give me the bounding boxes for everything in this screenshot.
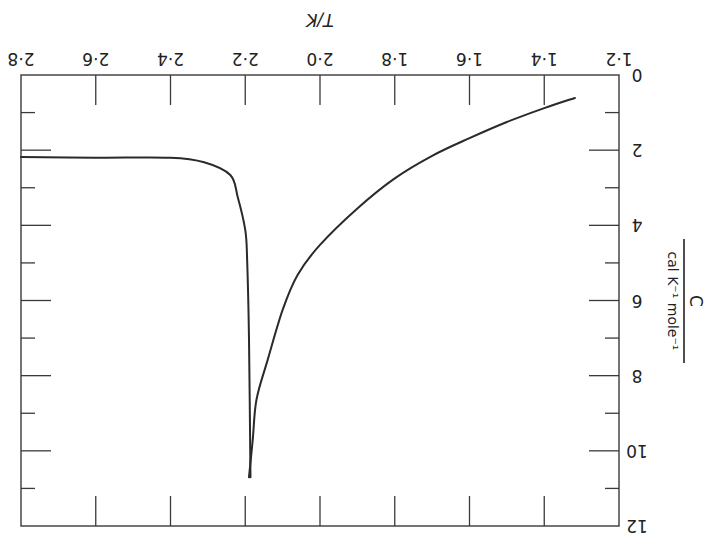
- curve-above-lambda: [21, 157, 250, 477]
- y-tick-label: 2: [632, 140, 643, 160]
- y-axis-tick-labels: 024681012: [626, 65, 648, 536]
- y-tick-label: 12: [626, 516, 648, 536]
- y-tick-label: 6: [632, 291, 643, 311]
- x-tick-label: 1·2: [605, 49, 632, 69]
- y-tick-label: 10: [626, 441, 648, 461]
- x-tick-label: 2·2: [232, 49, 259, 69]
- x-axis-ticks: [96, 75, 545, 526]
- rotated-figure: 1·21·41·61·82·02·22·42·62·8 024681012 T/…: [7, 10, 706, 536]
- x-tick-label: 2·4: [157, 49, 184, 69]
- data-curves: [21, 98, 575, 477]
- x-tick-label: 2·6: [82, 49, 109, 69]
- y-tick-label: 0: [632, 65, 643, 85]
- x-tick-label: 1·4: [531, 49, 558, 69]
- y-axis-ticks: [21, 113, 619, 489]
- y-axis-title: C cal K⁻¹ mole⁻¹: [665, 239, 706, 363]
- x-axis-title: T/K: [305, 10, 334, 30]
- x-tick-label: 1·8: [381, 49, 408, 69]
- lambda-point-heat-capacity-chart: 1·21·41·61·82·02·22·42·62·8 024681012 T/…: [0, 0, 712, 551]
- plot-frame: [21, 75, 619, 526]
- curve-below-lambda: [249, 98, 575, 477]
- x-axis-tick-labels: 1·21·41·61·82·02·22·42·62·8: [7, 49, 632, 69]
- x-tick-label: 2·8: [7, 49, 34, 69]
- x-tick-label: 1·6: [456, 49, 483, 69]
- y-axis-title-numerator: C: [686, 295, 706, 307]
- y-axis-title-denominator: cal K⁻¹ mole⁻¹: [665, 252, 681, 351]
- y-tick-label: 8: [632, 366, 643, 386]
- x-tick-label: 2·0: [306, 49, 333, 69]
- y-tick-label: 4: [632, 215, 643, 235]
